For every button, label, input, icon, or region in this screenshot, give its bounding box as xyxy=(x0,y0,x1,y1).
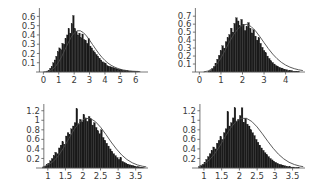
histogram-bar xyxy=(262,150,264,168)
y-tick-label: 0.5 xyxy=(22,21,36,31)
histogram-bar xyxy=(118,159,120,168)
histogram-bar xyxy=(62,142,64,168)
histogram-bar xyxy=(236,18,238,72)
histogram-bar xyxy=(232,32,234,72)
histogram-bar xyxy=(122,161,124,168)
histogram-bar xyxy=(243,24,245,72)
histogram-bar xyxy=(115,156,117,168)
histogram-bar xyxy=(275,66,277,72)
histogram-bar xyxy=(248,23,250,72)
histogram-bar xyxy=(270,158,272,168)
histogram-bar xyxy=(99,134,101,168)
x-tick-label: 0 xyxy=(41,75,46,85)
x-tick-label: 2.5 xyxy=(250,171,264,181)
histogram-bar xyxy=(123,162,125,168)
histogram-bar xyxy=(91,48,93,72)
histogram-bar xyxy=(71,24,73,72)
histogram-bar xyxy=(111,151,113,168)
histogram-bar xyxy=(258,38,260,72)
histogram-bar xyxy=(257,142,259,168)
histogram-bar xyxy=(229,126,231,168)
histogram-bar xyxy=(261,47,263,72)
histogram-bar xyxy=(82,34,84,72)
histogram-bar xyxy=(76,31,78,72)
histogram-bar xyxy=(239,116,241,169)
y-tick-label: 0.4 xyxy=(22,30,36,40)
histogram-bar xyxy=(116,68,118,72)
histogram-bar xyxy=(256,40,258,72)
x-tick-label: 3 xyxy=(115,171,120,181)
histogram-bars xyxy=(43,109,145,168)
histogram-bar xyxy=(265,53,267,72)
histogram-bar xyxy=(243,122,245,168)
histogram-bar xyxy=(106,66,108,72)
x-tick-label: 3.5 xyxy=(129,171,143,181)
histogram-bar xyxy=(263,50,265,72)
panel-top-left: 01234560.10.20.30.40.50.6 xyxy=(0,0,156,96)
y-axis-ticks: 0.20.40.60.811.2 xyxy=(26,106,44,164)
y-axis-ticks: 0.10.20.30.40.50.60.7 xyxy=(178,11,196,69)
histogram-bar xyxy=(102,137,104,168)
histogram-bar xyxy=(282,165,284,168)
x-tick-label: 1 xyxy=(218,75,223,85)
histogram-bar xyxy=(220,137,222,169)
histogram-bar xyxy=(268,58,270,72)
histogram-bar xyxy=(249,28,251,72)
histogram-bar xyxy=(110,66,112,72)
histogram-bar xyxy=(62,43,64,72)
histogram-bar xyxy=(277,66,279,72)
histogram-bar xyxy=(259,145,261,168)
y-tick-label: 1 xyxy=(191,115,196,125)
histogram-bar xyxy=(90,46,92,72)
histogram-bar xyxy=(282,69,284,72)
histogram-bar xyxy=(222,139,224,168)
histogram-bar xyxy=(120,158,122,169)
histogram-bar xyxy=(108,146,110,168)
histogram-bar xyxy=(74,28,76,72)
panel-bottom-left: 11.522.533.50.20.40.60.811.2 xyxy=(0,96,156,192)
panel-bottom-right: 11.522.533.50.20.40.60.811.2 xyxy=(156,96,313,192)
histogram-bar xyxy=(108,66,110,72)
x-tick-label: 1 xyxy=(201,171,206,181)
x-tick-label: 1 xyxy=(56,75,61,85)
x-tick-label: 0 xyxy=(197,75,202,85)
histogram-bar xyxy=(255,36,257,72)
histogram-bar xyxy=(109,149,111,168)
x-tick-label: 2 xyxy=(80,171,85,181)
histogram-bar xyxy=(252,133,254,168)
histogram-bar xyxy=(85,118,87,168)
y-tick-label: 0.6 xyxy=(182,134,196,144)
histogram-bar xyxy=(92,125,94,168)
y-tick-label: 0.6 xyxy=(22,12,36,22)
x-tick-label: 3 xyxy=(261,75,266,85)
histogram-bar xyxy=(101,130,103,168)
histogram-bars xyxy=(46,15,138,72)
histogram-bar xyxy=(255,139,257,168)
histogram-bar xyxy=(227,38,229,72)
histogram-bar xyxy=(218,55,220,72)
histogram-bar xyxy=(94,53,96,72)
x-tick-label: 1.5 xyxy=(59,171,73,181)
histogram-bar xyxy=(277,163,279,168)
histogram-bar xyxy=(231,123,233,168)
panel-bottom-left-plot: 11.522.533.50.20.40.60.811.2 xyxy=(0,96,156,192)
y-tick-label: 1.2 xyxy=(182,106,196,116)
histogram-bar xyxy=(209,154,211,168)
histogram-bar xyxy=(239,26,241,72)
histogram-bar xyxy=(244,31,246,72)
x-axis-ticks: 0123456 xyxy=(41,72,139,85)
y-tick-label: 0.2 xyxy=(22,49,36,59)
histogram-bar xyxy=(86,43,88,72)
histogram-bar xyxy=(129,165,131,168)
histogram-bar xyxy=(273,161,275,168)
y-tick-label: 0.4 xyxy=(26,144,40,154)
histogram-bar xyxy=(225,42,227,72)
histogram-bar xyxy=(222,46,224,72)
histogram-bar xyxy=(55,152,57,168)
histogram-bar xyxy=(83,40,85,72)
x-tick-label: 6 xyxy=(133,75,138,85)
histogram-bar xyxy=(102,62,104,72)
histogram-bar xyxy=(266,155,268,168)
histogram-bar xyxy=(93,51,95,72)
histogram-bar xyxy=(88,39,90,72)
